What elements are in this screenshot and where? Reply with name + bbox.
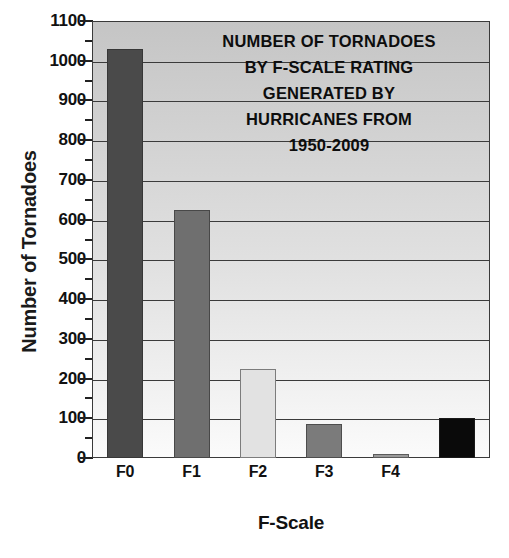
y-axis-tick-label: 700 (38, 170, 86, 190)
bar-series (92, 21, 490, 458)
y-axis-tick-labels: 010020030040050060070080090010001100 (38, 21, 86, 458)
y-axis-tick-label: 0 (38, 448, 86, 468)
x-axis-tick-label: F3 (291, 463, 357, 481)
y-axis-tick-label: 200 (38, 369, 86, 389)
x-axis-tick-labels: F0F1F2F3F4Unknown (92, 463, 490, 553)
bar-f4 (373, 454, 409, 458)
y-axis-tick-label: 400 (38, 289, 86, 309)
bar-f2 (240, 369, 276, 458)
x-axis-tick-label: F4 (357, 463, 423, 481)
x-axis-tick-label: F0 (92, 463, 158, 481)
tornado-f-scale-bar-chart: Number of Tornadoes 01002003004005006007… (0, 0, 509, 558)
x-axis-title: F-Scale (92, 512, 490, 534)
y-axis-tick-label: 1100 (38, 11, 86, 31)
x-axis-tick-label: F2 (225, 463, 291, 481)
bar-f3 (306, 424, 342, 458)
y-axis-tick-label: 100 (38, 408, 86, 428)
y-axis-tick-label: 300 (38, 329, 86, 349)
y-axis-tick-label: 600 (38, 210, 86, 230)
y-axis-tick-label: 500 (38, 249, 86, 269)
bar-f0 (107, 49, 143, 458)
y-axis-tick-label: 1000 (38, 51, 86, 71)
bar-f1 (174, 210, 210, 458)
x-axis-tick-label: F1 (158, 463, 224, 481)
y-axis-tick-label: 800 (38, 130, 86, 150)
y-axis-tick-label: 900 (38, 90, 86, 110)
bar-unknown (439, 418, 475, 458)
